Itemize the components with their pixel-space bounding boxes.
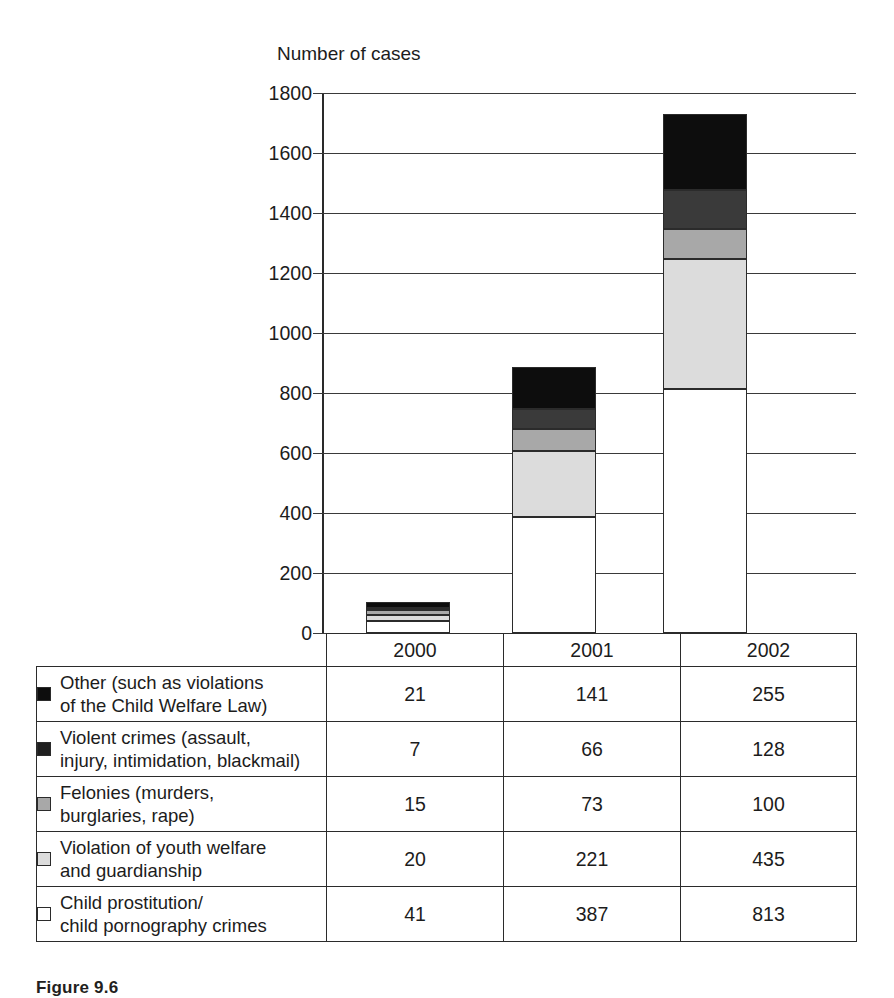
value-cell-2000: 21 [327, 667, 504, 722]
y-tick-1400 [313, 213, 322, 214]
plot-area [322, 93, 856, 633]
legend-label: Other (such as violationsof the Child We… [60, 671, 267, 717]
bar-segment [663, 259, 747, 390]
legend-data-table: 2000 2001 2002 Other (such as violations… [36, 633, 856, 942]
figure-caption: Figure 9.6 [36, 978, 118, 998]
y-tick-200 [313, 573, 322, 574]
bar-segment [663, 389, 747, 633]
y-axis-tick-labels: 180016001400120010008006004002000 [250, 93, 312, 633]
value-cell-2000: 7 [327, 722, 504, 777]
bar-segment [663, 114, 747, 191]
table-row: Violation of youth welfareand guardiansh… [37, 832, 857, 887]
bar-2000 [366, 602, 450, 633]
value-cell-2001: 66 [504, 722, 681, 777]
bar-segment [366, 608, 450, 610]
y-tick-1600 [313, 153, 322, 154]
value-cell-2002: 255 [681, 667, 857, 722]
gridline-1400 [322, 213, 856, 214]
data-table: 2000 2001 2002 Other (such as violations… [36, 633, 857, 942]
table-row: Child prostitution/child pornography cri… [37, 887, 857, 942]
y-tick-label-1000: 1000 [269, 322, 312, 345]
value-cell-2001: 73 [504, 777, 681, 832]
table-row: Felonies (murders,burglaries, rape)15731… [37, 777, 857, 832]
value-cell-2002: 813 [681, 887, 857, 942]
header-corner-blank [37, 634, 327, 667]
bar-segment [366, 610, 450, 615]
header-year-2002: 2002 [681, 634, 857, 667]
y-tick-label-800: 800 [279, 382, 312, 405]
legend-swatch-icon [37, 797, 51, 811]
value-cell-2002: 128 [681, 722, 857, 777]
figure-root: Number of cases 180016001400120010008006… [0, 0, 894, 998]
gridline-1200 [322, 273, 856, 274]
bar-segment [512, 409, 596, 429]
gridline-1600 [322, 153, 856, 154]
bar-2001 [512, 367, 596, 633]
bar-segment [512, 451, 596, 517]
value-cell-2001: 221 [504, 832, 681, 887]
gridline-1800 [322, 93, 856, 94]
bar-segment [663, 229, 747, 259]
legend-cell: Felonies (murders,burglaries, rape) [37, 777, 327, 832]
value-cell-2000: 20 [327, 832, 504, 887]
y-tick-1800 [313, 93, 322, 94]
legend-swatch-icon [37, 852, 51, 866]
value-cell-2001: 141 [504, 667, 681, 722]
bar-segment [366, 615, 450, 621]
table-row: Other (such as violationsof the Child We… [37, 667, 857, 722]
y-tick-600 [313, 453, 322, 454]
y-tick-1000 [313, 333, 322, 334]
y-axis-title: Number of cases [277, 43, 421, 65]
value-cell-2001: 387 [504, 887, 681, 942]
legend-cell: Violation of youth welfareand guardiansh… [37, 832, 327, 887]
y-tick-800 [313, 393, 322, 394]
y-tick-label-1200: 1200 [269, 262, 312, 285]
legend-swatch-icon [37, 742, 51, 756]
legend-cell: Violent crimes (assault,injury, intimida… [37, 722, 327, 777]
bar-segment [512, 429, 596, 451]
value-cell-2002: 435 [681, 832, 857, 887]
y-tick-400 [313, 513, 322, 514]
legend-swatch-icon [37, 687, 51, 701]
y-tick-label-200: 200 [279, 562, 312, 585]
bar-segment [512, 367, 596, 409]
value-cell-2000: 41 [327, 887, 504, 942]
y-tick-label-1800: 1800 [269, 82, 312, 105]
legend-swatch-icon [37, 907, 51, 921]
y-tick-label-400: 400 [279, 502, 312, 525]
gridline-1000 [322, 333, 856, 334]
header-year-2001: 2001 [504, 634, 681, 667]
y-tick-label-1600: 1600 [269, 142, 312, 165]
value-cell-2000: 15 [327, 777, 504, 832]
legend-label: Felonies (murders,burglaries, rape) [60, 781, 214, 827]
table-row: Violent crimes (assault,injury, intimida… [37, 722, 857, 777]
legend-label: Child prostitution/child pornography cri… [60, 891, 267, 937]
bar-segment [366, 602, 450, 608]
bar-2002 [663, 114, 747, 633]
value-cell-2002: 100 [681, 777, 857, 832]
legend-cell: Child prostitution/child pornography cri… [37, 887, 327, 942]
bar-segment [663, 190, 747, 228]
bar-segment [512, 517, 596, 633]
legend-label: Violation of youth welfareand guardiansh… [60, 836, 266, 882]
legend-cell: Other (such as violationsof the Child We… [37, 667, 327, 722]
header-year-2000: 2000 [327, 634, 504, 667]
y-tick-label-1400: 1400 [269, 202, 312, 225]
legend-label: Violent crimes (assault,injury, intimida… [60, 726, 300, 772]
y-tick-1200 [313, 273, 322, 274]
table-header-row: 2000 2001 2002 [37, 634, 857, 667]
y-tick-label-600: 600 [279, 442, 312, 465]
bar-segment [366, 621, 450, 633]
